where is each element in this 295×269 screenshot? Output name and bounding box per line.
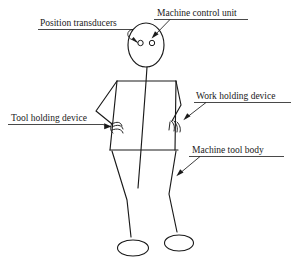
arrowhead-machine-tool-body [176, 169, 183, 176]
annotation-tool-holding-device: Tool holding device [8, 113, 112, 129]
head-ellipse [128, 23, 164, 67]
left-leg [112, 151, 131, 237]
annotation-machine-control-unit: Machine control unit [152, 8, 248, 39]
right-eye-icon [149, 40, 154, 45]
right-leg [169, 151, 177, 232]
arrowhead-work-holding-device [183, 113, 190, 120]
label-tool-holding-device: Tool holding device [11, 113, 87, 123]
annotation-work-holding-device: Work holding device [183, 91, 291, 120]
machine-tool-analogy-diagram: Position transducers Machine control uni… [0, 0, 295, 269]
diagram-canvas: Position transducers Machine control uni… [0, 0, 295, 269]
label-machine-tool-body: Machine tool body [192, 145, 264, 155]
stick-figure [96, 23, 194, 256]
annotation-machine-tool-body: Machine tool body [176, 145, 284, 176]
left-foot-ellipse [118, 240, 149, 256]
right-foot-ellipse [165, 235, 194, 251]
label-machine-control-unit: Machine control unit [157, 8, 237, 18]
right-hand-icon [169, 121, 180, 132]
label-position-transducers: Position transducers [40, 18, 117, 28]
annotation-position-transducers: Position transducers [38, 18, 139, 44]
label-work-holding-device: Work holding device [196, 91, 275, 101]
spine-line [138, 67, 147, 188]
left-eye-icon [138, 40, 143, 45]
right-arm [172, 81, 181, 121]
torso-left-side [110, 81, 117, 150]
